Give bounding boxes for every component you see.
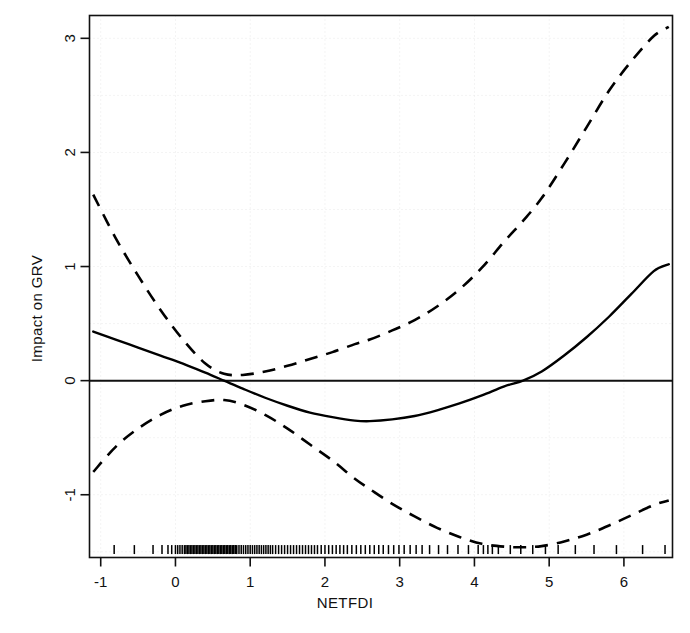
x-axis-title: NETFDI	[0, 594, 690, 611]
chart-figure: -10123456 -10123 NETFDI Impact on GRV	[0, 0, 690, 633]
y-axis-ticks: -10123	[61, 34, 90, 501]
x-tick-label: 6	[620, 573, 628, 590]
chart-plot-area: -10123456 -10123	[0, 0, 690, 633]
plot-frame	[90, 16, 673, 558]
x-tick-label: 3	[396, 573, 404, 590]
x-tick-label: -1	[94, 573, 107, 590]
lower-confidence-band	[93, 400, 669, 547]
x-tick-label: 5	[545, 573, 553, 590]
y-tick-label: 3	[61, 34, 78, 42]
x-tick-label: 1	[246, 573, 254, 590]
fitted-effect-curve	[93, 264, 669, 421]
x-axis-ticks: -10123456	[94, 558, 628, 590]
rug-plot	[114, 545, 665, 554]
y-tick-label: -1	[61, 488, 78, 501]
x-tick-label: 0	[171, 573, 179, 590]
x-tick-label: 4	[470, 573, 478, 590]
y-axis-title: Impact on GRV	[28, 229, 45, 389]
x-tick-label: 2	[321, 573, 329, 590]
y-tick-label: 2	[61, 148, 78, 156]
y-tick-label: 1	[61, 262, 78, 270]
y-tick-label: 0	[61, 376, 78, 384]
gridlines	[90, 16, 673, 558]
upper-confidence-band	[93, 27, 669, 375]
